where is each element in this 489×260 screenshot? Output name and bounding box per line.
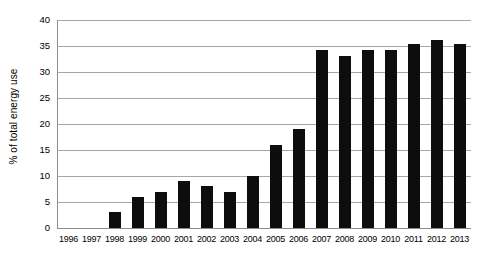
x-tick-label: 2009 xyxy=(356,232,379,250)
bar-slot xyxy=(310,20,333,228)
plot-area xyxy=(57,20,471,228)
bar xyxy=(339,56,351,228)
bar xyxy=(201,186,213,228)
bar xyxy=(316,50,328,228)
x-tick-label: 1996 xyxy=(57,232,80,250)
y-axis-tick-labels: 0510152025303540 xyxy=(26,20,54,228)
bar xyxy=(408,44,420,228)
y-tick-label: 15 xyxy=(39,145,50,155)
bar xyxy=(293,129,305,228)
x-tick-label: 2011 xyxy=(402,232,425,250)
x-tick-label: 2012 xyxy=(425,232,448,250)
bar-slot xyxy=(402,20,425,228)
y-axis-title: % of total energy use xyxy=(0,0,26,232)
x-tick-label: 2002 xyxy=(195,232,218,250)
bar-slot xyxy=(57,20,80,228)
bar-slot xyxy=(103,20,126,228)
bar xyxy=(362,50,374,228)
bar xyxy=(224,192,236,228)
x-tick-label: 2006 xyxy=(287,232,310,250)
x-tick-label: 2013 xyxy=(448,232,471,250)
bar xyxy=(385,50,397,228)
bar-slot xyxy=(287,20,310,228)
bar-slot xyxy=(195,20,218,228)
y-tick-label: 0 xyxy=(45,223,50,233)
x-tick-label: 1998 xyxy=(103,232,126,250)
bar-slot xyxy=(241,20,264,228)
x-tick-label: 2010 xyxy=(379,232,402,250)
y-tick-label: 20 xyxy=(39,119,50,129)
bar-chart: % of total energy use 0510152025303540 1… xyxy=(0,0,489,260)
x-tick-label: 2007 xyxy=(310,232,333,250)
x-axis-tick-labels: 1996199719981999200020012002200320042005… xyxy=(57,232,471,250)
bar-slot xyxy=(218,20,241,228)
bar-slot xyxy=(126,20,149,228)
y-tick-label: 35 xyxy=(39,41,50,51)
y-tick-label: 25 xyxy=(39,93,50,103)
axis-baseline xyxy=(57,228,471,229)
x-tick-label: 2000 xyxy=(149,232,172,250)
x-tick-label: 2005 xyxy=(264,232,287,250)
bar-slot xyxy=(149,20,172,228)
bar xyxy=(155,192,167,228)
bar-slot xyxy=(264,20,287,228)
bar xyxy=(431,40,443,228)
bar xyxy=(109,212,121,228)
bar-slot xyxy=(448,20,471,228)
bar-slot xyxy=(425,20,448,228)
y-tick-label: 5 xyxy=(45,197,50,207)
x-tick-label: 2001 xyxy=(172,232,195,250)
y-tick-label: 10 xyxy=(39,171,50,181)
x-tick-label: 2004 xyxy=(241,232,264,250)
bar xyxy=(454,44,466,228)
bar-slot xyxy=(333,20,356,228)
x-tick-label: 2003 xyxy=(218,232,241,250)
bars-layer xyxy=(57,20,471,228)
bar xyxy=(247,176,259,228)
x-tick-label: 2008 xyxy=(333,232,356,250)
y-tick-label: 40 xyxy=(39,15,50,25)
bar xyxy=(270,145,282,228)
bar xyxy=(178,181,190,228)
y-tick-label: 30 xyxy=(39,67,50,77)
bar-slot xyxy=(172,20,195,228)
y-axis-title-text: % of total energy use xyxy=(8,68,19,164)
bar-slot xyxy=(379,20,402,228)
bar-slot xyxy=(80,20,103,228)
x-tick-label: 1997 xyxy=(80,232,103,250)
x-tick-label: 1999 xyxy=(126,232,149,250)
bar xyxy=(132,197,144,228)
bar-slot xyxy=(356,20,379,228)
